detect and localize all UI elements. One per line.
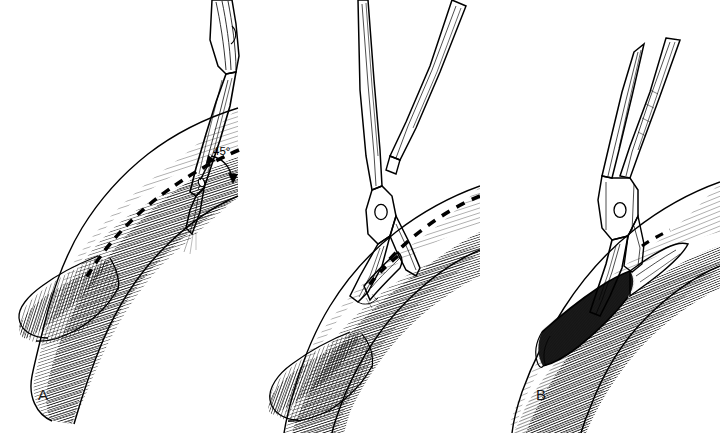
panel-a-illustration: 45° — [0, 0, 240, 433]
panel-b-illustration — [240, 0, 480, 433]
vessel-artery — [0, 0, 240, 433]
panel-label-a: A — [38, 386, 49, 403]
figure-root: 45° A — [0, 0, 720, 433]
panel-a: 45° A — [0, 0, 240, 433]
angle-label-text: 45° — [213, 145, 230, 157]
scissors-pivot-screw — [614, 203, 626, 218]
panel-c-illustration — [480, 0, 720, 433]
scissors-pivot-screw — [375, 204, 387, 219]
panel-b: B — [240, 0, 480, 433]
panel-c: C — [480, 0, 720, 433]
